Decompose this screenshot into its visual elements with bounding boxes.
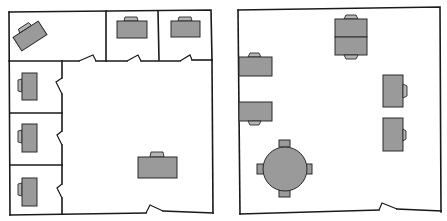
desk-top-left-office (11, 18, 47, 51)
table-chair-top (279, 140, 290, 147)
round-meeting-table (257, 140, 312, 197)
floor-plan-diagram: Floor plan with private offices Open-pla… (0, 0, 447, 221)
desk-right-lower (383, 118, 406, 151)
desk-left-office-1 (18, 73, 37, 100)
desk-top-middle-office (117, 17, 147, 38)
paired-desks-top (335, 15, 367, 59)
desk-left-office-3 (18, 178, 37, 206)
desk-top-right-office (171, 17, 200, 37)
desk-right-upper (383, 75, 407, 107)
desk-open-area (138, 152, 177, 178)
desk-left-wall-upper (239, 53, 272, 76)
desk-left-office-2 (18, 124, 37, 152)
left-floor-plan (9, 10, 213, 215)
desk-left-wall-lower (239, 102, 272, 125)
right-floor-plan (238, 7, 441, 214)
